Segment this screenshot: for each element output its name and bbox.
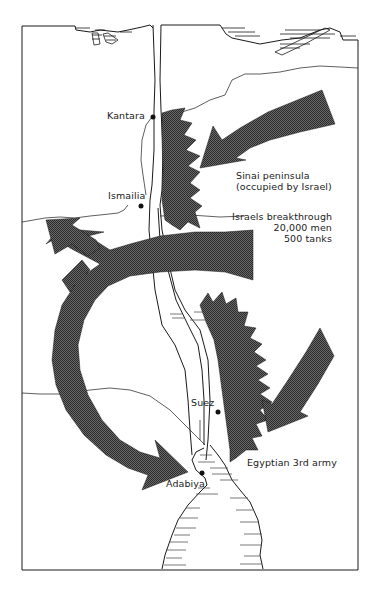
battle-map: [0, 0, 380, 589]
place-label-adabiya: Adabiya: [166, 478, 205, 489]
sinai-label: Sinai peninsula: [236, 170, 310, 181]
israeli-counterattack-arrow-north: [200, 90, 335, 168]
breakthrough-label: Israels breakthrough: [232, 211, 332, 222]
egyptian-2nd-army-bridgehead: [162, 108, 202, 230]
adabiya-marker: [200, 471, 205, 476]
breakthrough-men-label: 20,000 men: [232, 222, 332, 233]
egyptian-3rd-army-bridgehead: [200, 292, 272, 462]
israeli-counterattack-arrow-south: [262, 328, 334, 432]
suez-marker: [216, 410, 221, 415]
ismailia-marker: [139, 204, 144, 209]
israeli-arrow-west: [46, 218, 100, 256]
egyptian-3rd-army-label: Egyptian 3rd army: [247, 457, 337, 468]
sinai-occupied-label: (occupied by Israel): [236, 181, 332, 192]
breakthrough-tanks-label: 500 tanks: [232, 233, 332, 244]
place-label-kantara: Kantara: [107, 110, 145, 121]
place-label-suez: Suez: [191, 397, 214, 408]
sea-hatching: [75, 28, 356, 48]
place-label-ismailia: Ismailia: [108, 190, 145, 201]
kantara-marker: [151, 115, 156, 120]
